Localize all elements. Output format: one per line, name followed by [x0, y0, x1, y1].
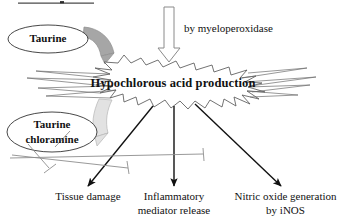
taurine-chloramine-label-line2: chloramine	[7, 133, 97, 145]
hypochlorous-acid-production-label: Hypochlorous acid production	[73, 76, 273, 90]
taurine-chloramine-label-line1: Taurine	[7, 118, 97, 130]
myeloperoxidase-annotation: by myeloperoxidase	[184, 22, 334, 34]
arrow-burst-to-nitric-oxide-generation	[195, 104, 281, 186]
outcome-nitric-oxide-line2: by iNOS	[228, 204, 343, 216]
myeloperoxidase-hollow-arrow	[158, 7, 180, 62]
outcome-inflammatory-line1: Inflammatory	[128, 190, 220, 202]
outcome-inflammatory-line2: mediator release	[122, 204, 226, 216]
inhibition-tbar-nitric-oxide	[203, 148, 204, 161]
outcome-tissue-damage-line1: Tissue damage	[33, 190, 143, 202]
inhibition-tbar-tissue-damage	[44, 164, 56, 173]
figure-canvas: Taurine Taurine chloramine Hypochlorous …	[0, 0, 343, 221]
taurine-label: Taurine	[8, 32, 88, 44]
outcome-nitric-oxide-line1: Nitric oxide generation	[228, 190, 343, 202]
